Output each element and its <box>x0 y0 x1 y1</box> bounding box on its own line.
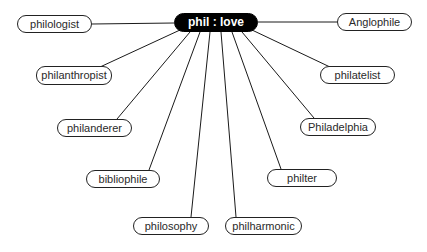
connector-line-philadelphia <box>242 32 314 118</box>
node-philatelist: philatelist <box>320 66 395 84</box>
node-philanthropist: philanthropist <box>36 66 112 85</box>
connector-line-philter <box>232 32 281 169</box>
node-anglophile: Anglophile <box>337 13 412 31</box>
node-philanderer: philanderer <box>57 119 132 137</box>
connector-line-philanderer <box>117 32 190 119</box>
connector-line-philanthropist <box>100 30 180 67</box>
node-philadelphia: Philadelphia <box>300 118 376 136</box>
node-philologist: philologist <box>17 15 92 33</box>
connector-line-bibliophile <box>149 32 200 170</box>
connector-line-philharmonic <box>221 32 236 217</box>
connector-line-philologist <box>92 23 174 24</box>
node-philharmonic: philharmonic <box>225 217 302 235</box>
connector-line-philosophy <box>191 32 210 217</box>
mind-map-diagram: phil : love philologist Anglophile phila… <box>0 0 427 252</box>
node-philosophy: philosophy <box>133 217 209 235</box>
node-bibliophile: bibliophile <box>86 170 160 188</box>
node-philter: philter <box>267 169 337 187</box>
connector-line-philatelist <box>252 30 330 67</box>
center-node-phil-love: phil : love <box>174 13 258 32</box>
